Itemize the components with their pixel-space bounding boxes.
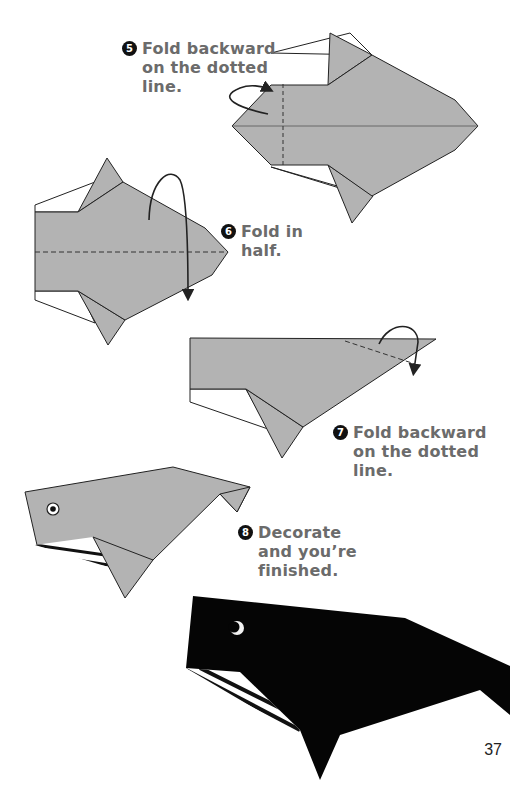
step-text-line: on the dotted: [353, 442, 487, 461]
step-6-diagram: [35, 158, 228, 345]
step-6-instruction: 6 Fold in half.: [241, 222, 303, 260]
step-5-instruction: 5 Fold backward on the dotted line.: [142, 39, 276, 96]
step-text-line: finished.: [258, 561, 357, 580]
step-8-instruction: 8 Decorate and you’re finished.: [258, 523, 357, 580]
step-text-line: Fold backward: [353, 423, 487, 442]
step-number-badge: 6: [221, 224, 236, 239]
step-7-instruction: 7 Fold backward on the dotted line.: [353, 423, 487, 480]
step-text-line: Fold backward: [142, 39, 276, 58]
finished-whale-photo: [180, 596, 510, 780]
step-number-badge: 7: [333, 425, 348, 440]
step-text-line: Decorate: [258, 523, 357, 542]
step-text-line: on the dotted: [142, 58, 276, 77]
whale-eye-icon: [47, 503, 59, 515]
page-number: 37: [484, 741, 502, 759]
step-number-badge: 8: [238, 525, 253, 540]
step-text-line: half.: [241, 241, 303, 260]
step-text-line: line.: [353, 461, 487, 480]
step-text-line: and you’re: [258, 542, 357, 561]
illustrations: [0, 0, 518, 786]
step-number-badge: 5: [122, 41, 137, 56]
step-text-line: Fold in: [241, 222, 303, 241]
step-8-diagram: [25, 467, 250, 598]
step-text-line: line.: [142, 77, 276, 96]
